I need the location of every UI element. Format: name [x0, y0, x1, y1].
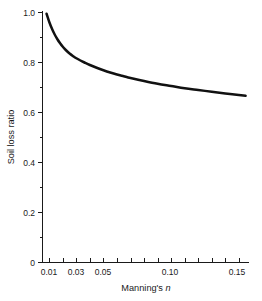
x-axis-ticks [50, 258, 240, 263]
x-tick-label-0: 0.01 [41, 267, 58, 277]
y-axis-title: Soil loss ratio [6, 110, 16, 165]
y-tick-label-0: 0 [30, 258, 35, 268]
y-tick-label-4: 0.8 [23, 58, 35, 68]
x-tick-label-1: 0.03 [68, 267, 85, 277]
chart-figure: 0 0.2 0.4 0.6 0.8 1.0 0.01 0.03 0.05 0.1… [0, 0, 262, 301]
x-tick-label-3: 0.10 [162, 267, 179, 277]
y-tick-label-2: 0.4 [23, 158, 35, 168]
soil-loss-ratio-curve [47, 14, 246, 96]
x-axis-title: Manning's n [121, 283, 170, 293]
x-axis-tick-labels: 0.01 0.03 0.05 0.10 0.15 [41, 267, 246, 277]
y-tick-label-1: 0.2 [23, 208, 35, 218]
x-axis-title-symbol: n [166, 283, 171, 293]
x-tick-label-2: 0.05 [95, 267, 112, 277]
x-axis-title-prefix: Manning's [121, 283, 163, 293]
y-axis-tick-labels: 0 0.2 0.4 0.6 0.8 1.0 [23, 8, 35, 268]
x-tick-label-4: 0.15 [229, 267, 246, 277]
y-tick-label-3: 0.6 [23, 108, 35, 118]
y-tick-label-5: 1.0 [23, 8, 35, 18]
soil-loss-ratio-line-chart: 0 0.2 0.4 0.6 0.8 1.0 0.01 0.03 0.05 0.1… [0, 0, 262, 301]
